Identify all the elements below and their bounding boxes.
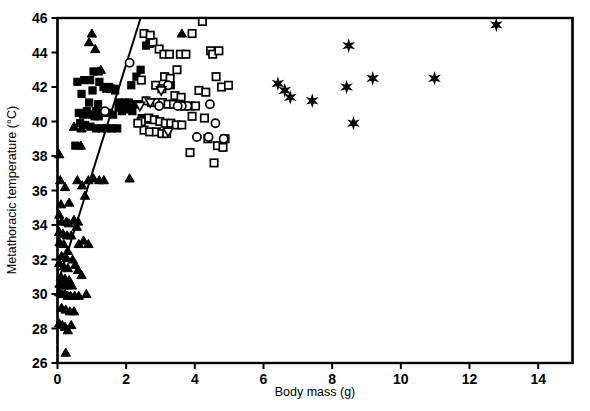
data-point	[82, 289, 91, 297]
data-point	[74, 78, 81, 85]
star-shape	[273, 78, 282, 89]
data-point	[178, 121, 185, 128]
data-point	[55, 210, 64, 218]
data-point	[67, 320, 76, 328]
data-point	[166, 51, 173, 58]
data-point	[126, 59, 134, 67]
regression-line	[58, 18, 141, 285]
y-axis-title: Metathoracic temperature (°C)	[5, 106, 19, 274]
data-point	[80, 191, 89, 199]
x-tick-label: 10	[393, 371, 409, 387]
data-point	[72, 142, 79, 149]
data-point	[110, 111, 117, 118]
x-axis-title: Body mass (g)	[275, 385, 356, 399]
data-point	[430, 73, 439, 84]
data-point	[128, 82, 135, 89]
x-tick-label: 12	[462, 371, 478, 387]
star-shape	[492, 20, 501, 31]
data-point	[155, 102, 163, 110]
data-point	[101, 107, 109, 115]
data-point	[206, 100, 214, 108]
y-tick-label: 44	[32, 45, 48, 61]
x-tick-label: 6	[260, 371, 268, 387]
y-tick-label: 40	[32, 114, 48, 130]
data-point	[210, 159, 217, 166]
scatter-plot: 024681012142628303234363840424446 Body m…	[0, 0, 590, 411]
chart-figure: 024681012142628303234363840424446 Body m…	[0, 0, 590, 411]
data-point	[215, 47, 222, 54]
data-point	[492, 20, 501, 31]
y-tick-label: 38	[32, 148, 48, 164]
data-point	[134, 120, 141, 127]
data-point	[177, 29, 186, 37]
data-point	[308, 95, 317, 106]
series-star	[273, 20, 501, 129]
data-point	[349, 118, 358, 129]
plot-frame	[58, 18, 573, 363]
y-tick-label: 26	[32, 355, 48, 371]
y-tick-label: 28	[32, 321, 48, 337]
data-point	[89, 87, 96, 94]
y-tick-label: 30	[32, 286, 48, 302]
data-point	[55, 150, 64, 158]
star-shape	[342, 82, 351, 93]
y-tick-label: 34	[32, 217, 48, 233]
data-point	[192, 102, 199, 109]
star-shape	[349, 118, 358, 129]
data-point	[188, 113, 195, 120]
data-point	[138, 76, 145, 83]
data-point	[286, 92, 295, 103]
data-point	[186, 149, 193, 156]
data-point	[78, 90, 85, 97]
star-shape	[430, 73, 439, 84]
data-point	[79, 111, 86, 118]
data-point	[368, 73, 377, 84]
data-point	[87, 29, 96, 37]
data-point	[61, 348, 70, 356]
x-tick-label: 4	[191, 371, 199, 387]
data-point	[94, 101, 101, 108]
y-tick-label: 42	[32, 79, 48, 95]
data-point	[225, 82, 232, 89]
plot-frame-overlay	[58, 18, 573, 363]
data-point	[90, 68, 97, 75]
data-point	[64, 198, 73, 206]
y-tick-label: 32	[32, 252, 48, 268]
x-tick-label: 2	[122, 371, 130, 387]
y-tick-label: 46	[32, 10, 48, 26]
data-point	[129, 108, 136, 115]
x-tick-label: 0	[54, 371, 62, 387]
data-point	[84, 38, 93, 46]
star-shape	[308, 95, 317, 106]
data-point	[182, 51, 189, 58]
data-point	[342, 82, 351, 93]
star-shape	[368, 73, 377, 84]
data-point	[173, 66, 180, 73]
data-point	[188, 30, 195, 37]
data-point	[212, 73, 219, 80]
data-point	[85, 99, 92, 106]
x-tick-label: 14	[530, 371, 546, 387]
data-point	[202, 88, 209, 95]
y-tick-label: 36	[32, 183, 48, 199]
data-point	[211, 119, 219, 127]
data-point	[111, 85, 118, 92]
data-point	[219, 144, 226, 151]
data-point	[174, 102, 182, 110]
data-point	[81, 77, 88, 84]
star-shape	[286, 92, 295, 103]
data-point	[125, 174, 134, 182]
series-open-square	[134, 18, 232, 167]
data-point	[193, 133, 201, 141]
data-point	[137, 66, 144, 73]
data-point	[220, 135, 228, 143]
data-point	[344, 40, 353, 51]
data-point	[147, 32, 154, 39]
data-point	[204, 133, 212, 141]
data-point	[114, 125, 121, 132]
data-point	[201, 114, 208, 121]
star-shape	[344, 40, 353, 51]
data-point	[273, 78, 282, 89]
